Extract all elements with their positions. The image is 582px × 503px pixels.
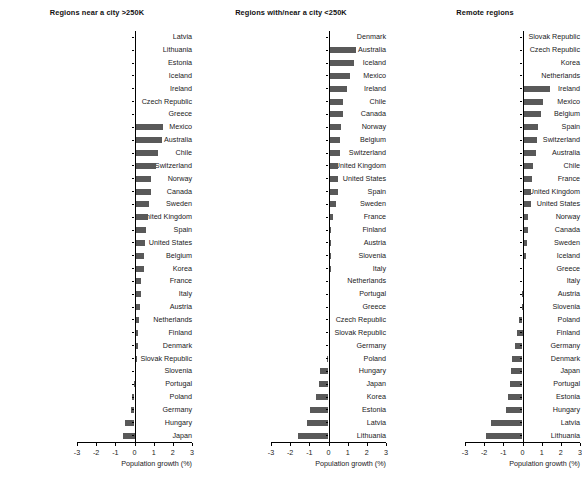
bar-track xyxy=(194,147,388,160)
bar-row: United States xyxy=(388,198,582,211)
x-tick-label: 3 xyxy=(578,448,582,457)
bar-row: Slovak Republic xyxy=(194,326,388,339)
bar-track xyxy=(0,211,194,224)
bar-row: Canada xyxy=(0,185,194,198)
bar-row: Greece xyxy=(194,301,388,314)
bar-row: Australia xyxy=(388,147,582,160)
bar-row: Lithuania xyxy=(0,44,194,57)
bar-track xyxy=(0,429,194,442)
bar xyxy=(523,189,532,195)
bar-track xyxy=(194,262,388,275)
bar-track xyxy=(388,403,582,416)
bar-row: Chile xyxy=(388,159,582,172)
bar xyxy=(135,201,150,207)
x-axis-title: Population growth (%) xyxy=(121,459,192,468)
bar-track xyxy=(388,134,582,147)
bar-row: Australia xyxy=(194,44,388,57)
bar-row: Germany xyxy=(194,339,388,352)
bar-track xyxy=(194,121,388,134)
bar-row: Belgium xyxy=(0,249,194,262)
x-tick xyxy=(348,443,349,446)
bar-row: Hungary xyxy=(0,416,194,429)
bar-track xyxy=(194,403,388,416)
bar-track xyxy=(194,378,388,391)
bar-row: Mexico xyxy=(0,121,194,134)
bar-row: Greece xyxy=(388,262,582,275)
x-tick xyxy=(503,443,504,446)
bar-track xyxy=(0,121,194,134)
x-tick-label: -3 xyxy=(74,448,80,457)
bar xyxy=(329,73,350,79)
bar xyxy=(135,278,142,284)
bar-track xyxy=(0,314,194,327)
bar-row: Poland xyxy=(388,314,582,327)
x-tick-label: 0 xyxy=(133,448,137,457)
x-tick xyxy=(561,443,562,446)
bar-track xyxy=(0,378,194,391)
bar-row: Chile xyxy=(194,95,388,108)
bar xyxy=(135,176,152,182)
bar-rows: Slovak RepublicCzech RepublicKoreaNether… xyxy=(388,31,582,442)
bar-track xyxy=(0,339,194,352)
x-tick-label: -2 xyxy=(481,448,487,457)
bar-track xyxy=(194,352,388,365)
bar-row: Mexico xyxy=(388,95,582,108)
bar-track xyxy=(388,172,582,185)
bar-track xyxy=(194,31,388,44)
bar-track xyxy=(0,288,194,301)
bar xyxy=(135,150,159,156)
bar xyxy=(135,240,146,246)
bar-row: Chile xyxy=(0,147,194,160)
x-tick xyxy=(329,443,330,446)
bar-row: Austria xyxy=(0,301,194,314)
bar-track xyxy=(388,301,582,314)
bar-row: United Kingdom xyxy=(388,185,582,198)
bar-track xyxy=(388,57,582,70)
panel-title: Regions near a city >250K xyxy=(0,8,194,17)
plot-area: LatviaLithuaniaEstoniaIcelandIrelandCzec… xyxy=(0,31,194,456)
bar-track xyxy=(388,378,582,391)
bar-row: Japan xyxy=(0,429,194,442)
bar-row: Italy xyxy=(388,275,582,288)
bar-row: Iceland xyxy=(0,70,194,83)
zero-line xyxy=(329,31,330,442)
bar xyxy=(523,163,534,169)
bar-row: Denmark xyxy=(388,352,582,365)
x-tick xyxy=(290,443,291,446)
bar-track xyxy=(388,249,582,262)
x-tick xyxy=(271,443,272,446)
bar-track xyxy=(388,224,582,237)
bar-track xyxy=(0,31,194,44)
bar-row: Greece xyxy=(0,108,194,121)
bar-row: Slovak Republic xyxy=(388,31,582,44)
bar-row: Czech Republic xyxy=(194,314,388,327)
bar-row: Spain xyxy=(388,121,582,134)
x-tick xyxy=(154,443,155,446)
bar-row: Canada xyxy=(194,108,388,121)
bar xyxy=(523,111,541,117)
bar xyxy=(298,433,329,439)
bar-row: Lithuania xyxy=(194,429,388,442)
bar xyxy=(329,201,336,207)
bar-row: Switzerland xyxy=(388,134,582,147)
bar-track xyxy=(388,237,582,250)
bar-track xyxy=(0,57,194,70)
x-tick xyxy=(309,443,310,446)
bar-track xyxy=(0,82,194,95)
x-tick-label: -3 xyxy=(462,448,468,457)
bar-track xyxy=(194,95,388,108)
x-tick xyxy=(173,443,174,446)
bar-row: Switzerland xyxy=(0,159,194,172)
bar xyxy=(329,99,344,105)
bar-row: Hungary xyxy=(388,403,582,416)
bar-row: Netherlands xyxy=(194,275,388,288)
bar-track xyxy=(194,365,388,378)
bar-track xyxy=(388,288,582,301)
bar-track xyxy=(194,172,388,185)
bar-row: Estonia xyxy=(388,391,582,404)
bar-row: United Kingdom xyxy=(194,159,388,172)
bar xyxy=(135,253,145,259)
bar-row: Austria xyxy=(194,237,388,250)
bar-row: Belgium xyxy=(194,134,388,147)
bar-track xyxy=(388,82,582,95)
